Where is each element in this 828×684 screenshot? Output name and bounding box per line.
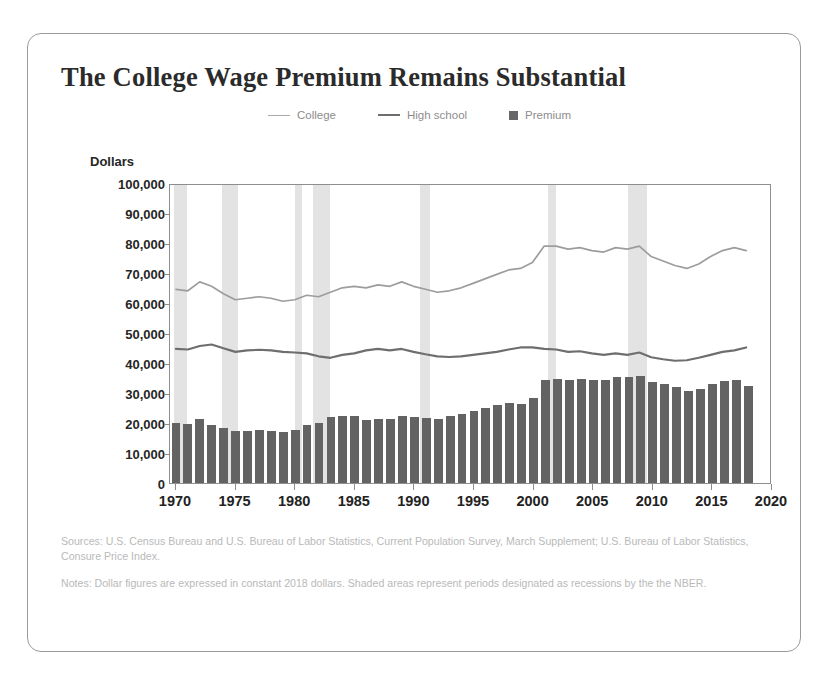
x-axis-tick-label: 2005 — [576, 493, 608, 509]
y-axis-tick — [164, 394, 169, 395]
y-axis-tick-label: 100,000 — [118, 177, 165, 192]
x-axis-tick-label: 1970 — [159, 493, 191, 509]
y-axis-tick-label: 0 — [158, 477, 165, 492]
x-axis-tick — [413, 484, 414, 490]
plot-area — [169, 184, 771, 484]
line-college — [176, 246, 746, 301]
x-axis-tick-label: 2000 — [516, 493, 548, 509]
notes-note: Notes: Dollar figures are expressed in c… — [61, 576, 775, 591]
y-axis-tick-label: 60,000 — [125, 297, 165, 312]
x-axis-tick — [592, 484, 593, 490]
y-axis-tick — [164, 274, 169, 275]
x-axis-tick-label: 2015 — [695, 493, 727, 509]
y-axis-tick — [164, 424, 169, 425]
x-axis-tick-label: 1995 — [457, 493, 489, 509]
x-axis-tick — [711, 484, 712, 490]
x-axis-tick — [652, 484, 653, 490]
y-axis-tick — [164, 304, 169, 305]
y-axis-tick-label: 10,000 — [125, 447, 165, 462]
y-axis-tick-label: 90,000 — [125, 207, 165, 222]
chart-card: The College Wage Premium Remains Substan… — [27, 33, 801, 652]
y-axis-tick — [164, 244, 169, 245]
x-axis-tick-label: 1975 — [218, 493, 250, 509]
y-axis-tick — [164, 364, 169, 365]
line-series — [170, 185, 770, 483]
y-axis-tick-label: 20,000 — [125, 417, 165, 432]
x-axis-tick — [473, 484, 474, 490]
x-axis-tick-label: 1990 — [397, 493, 429, 509]
x-axis-tick — [294, 484, 295, 490]
footnotes: Sources: U.S. Census Bureau and U.S. Bur… — [61, 534, 775, 603]
y-axis-tick — [164, 454, 169, 455]
y-axis-tick-label: 30,000 — [125, 387, 165, 402]
x-axis-tick — [533, 484, 534, 490]
y-axis-tick — [164, 214, 169, 215]
y-axis-tick-label: 50,000 — [125, 327, 165, 342]
sources-note: Sources: U.S. Census Bureau and U.S. Bur… — [61, 534, 775, 564]
x-axis-tick — [175, 484, 176, 490]
x-axis-tick-label: 1985 — [338, 493, 370, 509]
y-axis-tick-label: 40,000 — [125, 357, 165, 372]
x-axis-tick-label: 1980 — [278, 493, 310, 509]
x-axis-tick — [235, 484, 236, 490]
y-axis-tick-labels: 010,00020,00030,00040,00050,00060,00070,… — [83, 184, 165, 484]
y-axis-tick-label: 70,000 — [125, 267, 165, 282]
x-axis-tick-label: 2020 — [755, 493, 787, 509]
x-axis-tick — [771, 484, 772, 490]
y-axis-tick-label: 80,000 — [125, 237, 165, 252]
x-axis-tick — [354, 484, 355, 490]
y-axis-tick — [164, 334, 169, 335]
x-axis-tick-label: 2010 — [636, 493, 668, 509]
line-high-school — [176, 344, 746, 360]
